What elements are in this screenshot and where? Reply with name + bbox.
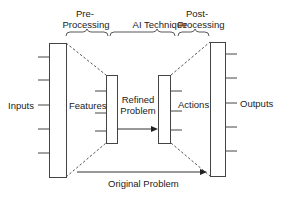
- actions-box: [159, 76, 171, 144]
- input-ticks: [38, 57, 49, 153]
- outputs-label: Outputs: [240, 98, 274, 109]
- ai-pipeline-diagram: Pre- Processing AI Technique Post- Proce…: [0, 0, 281, 199]
- input-layer-box: [50, 44, 67, 178]
- inputs-label: Inputs: [8, 100, 34, 111]
- output-layer-box: [211, 43, 226, 177]
- pre-processing-brace: [66, 29, 108, 36]
- post-processing-label-line2: Processing: [178, 19, 225, 30]
- refined-problem-arrowhead-icon: [151, 126, 158, 132]
- refined-problem-label-line1: Refined: [122, 94, 155, 105]
- pre-processing-label-line2: Processing: [63, 19, 110, 30]
- post-processing-brace: [178, 29, 209, 36]
- feature-ticks: [95, 91, 106, 131]
- action-ticks: [171, 91, 182, 130]
- post-processing-label-line1: Post-: [186, 8, 208, 19]
- output-ticks: [226, 54, 237, 151]
- original-problem-label: Original Problem: [108, 178, 179, 189]
- ai-technique-brace: [110, 29, 175, 36]
- features-label: Features: [69, 100, 107, 111]
- pre-processing-label-line1: Pre-: [76, 8, 94, 19]
- funnel-top-left: [66, 43, 106, 75]
- refined-problem-label-line2: Problem: [120, 105, 155, 116]
- actions-label: Actions: [178, 99, 209, 110]
- funnel-top-right: [171, 42, 210, 75]
- features-box: [107, 76, 118, 144]
